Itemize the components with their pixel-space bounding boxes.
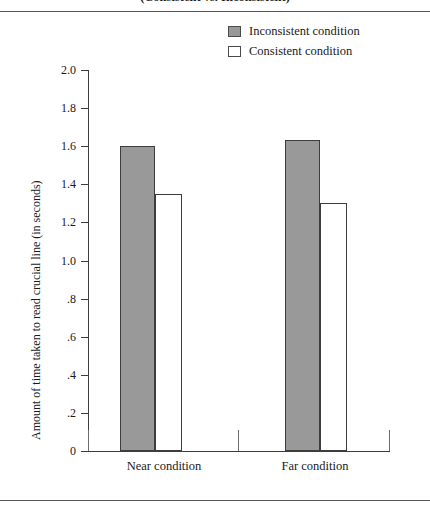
y-axis-title: Amount of time taken to read crucial lin… (30, 60, 42, 440)
y-axis-tick (81, 451, 89, 452)
y-axis-tick (81, 70, 89, 71)
x-axis-label-near: Near condition (127, 460, 202, 473)
figure-bottom-rule (0, 500, 430, 501)
y-axis-tick (81, 108, 89, 109)
y-axis-tick (81, 299, 89, 300)
bar-far-inconsistent (285, 140, 320, 451)
y-axis-tick-label: 1.6 (61, 140, 76, 152)
y-axis-tick-label: 1.8 (61, 102, 76, 114)
y-axis-tick-label: .2 (67, 407, 76, 419)
bar-near-inconsistent (120, 146, 155, 451)
y-axis-tick (81, 184, 89, 185)
y-axis-tick-label: .6 (67, 331, 76, 343)
y-axis-tick (81, 375, 89, 376)
y-axis-tick-label: 1.2 (61, 216, 76, 228)
y-axis-tick-label: .4 (67, 369, 76, 381)
y-axis-tick-label: 2.0 (61, 64, 76, 76)
category-separator-left (88, 430, 89, 451)
y-axis-tick (81, 146, 89, 147)
y-axis-tick-label: 1.0 (61, 255, 76, 267)
y-axis-tick (81, 261, 89, 262)
bar-far-consistent (320, 203, 347, 451)
y-axis-tick-label: .8 (67, 293, 76, 305)
bar-near-consistent (155, 194, 182, 451)
y-axis-tick-label: 1.4 (61, 178, 76, 190)
x-axis-label-far: Far condition (281, 460, 348, 473)
category-separator-right (389, 430, 390, 451)
y-axis-tick (81, 413, 89, 414)
category-separator-middle (238, 430, 239, 451)
y-axis-tick (81, 337, 89, 338)
y-axis-tick-label: 0 (70, 445, 76, 457)
bar-chart-plot: 2.01.81.61.41.21.0.8.6.4.20 Near conditi… (0, 0, 430, 506)
y-axis-tick (81, 222, 89, 223)
x-axis-line (88, 451, 390, 452)
